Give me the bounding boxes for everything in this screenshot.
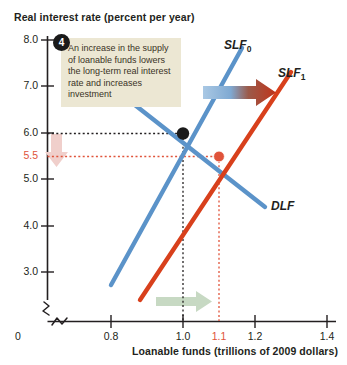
x-tick-1-1: 1.1	[204, 330, 234, 342]
new-equilibrium-dot	[214, 151, 225, 162]
investment-increase-arrow	[156, 291, 212, 312]
axis-break-marks	[43, 302, 67, 325]
loanable-funds-chart: Real interest rate (percent per year) Lo…	[0, 0, 347, 365]
annotation-callout: An increase in the supply of loanable fu…	[61, 38, 181, 107]
y-tick-4-0: 4.0	[0, 219, 38, 231]
initial-equilibrium-dot	[177, 127, 189, 139]
annotation-step-badge: 4	[53, 34, 70, 51]
y-tick-5-0: 5.0	[0, 172, 38, 184]
y-tick-8-0: 8.0	[0, 33, 38, 45]
guide-lines	[48, 134, 220, 322]
x-tick-1-2: 1.2	[240, 330, 270, 342]
dlf-label: DLF	[271, 199, 294, 213]
x-tick-0-8: 0.8	[96, 330, 126, 342]
slf0-label: SLF0	[224, 38, 251, 54]
slf0-label-sub: 0	[247, 44, 252, 54]
slf1-label-base: SLF	[278, 66, 301, 80]
y-tick-3-0: 3.0	[0, 265, 38, 277]
y-tick-6-0: 6.0	[0, 126, 38, 138]
slf0-label-base: SLF	[224, 38, 247, 52]
interest-rate-fall-arrow	[45, 134, 68, 167]
origin-label: 0	[8, 330, 28, 342]
dlf-label-base: DLF	[271, 199, 294, 213]
slf1-label: SLF1	[278, 66, 305, 82]
y-tick-7-0: 7.0	[0, 79, 38, 91]
x-tick-1-4: 1.4	[312, 330, 342, 342]
y-tick-5-5: 5.5	[0, 149, 38, 161]
slf1-label-sub: 1	[301, 72, 306, 82]
x-axis-title: Loanable funds (trillions of 2009 dollar…	[132, 345, 338, 357]
annotation-text: An increase in the supply of loanable fu…	[68, 43, 175, 101]
x-tick-1-0: 1.0	[168, 330, 198, 342]
y-axis-title: Real interest rate (percent per year)	[14, 11, 195, 23]
